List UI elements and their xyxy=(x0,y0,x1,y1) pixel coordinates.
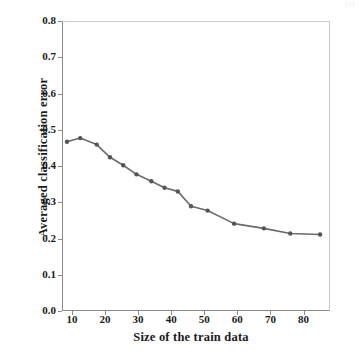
y-tick-label: 0.8 xyxy=(0,15,56,26)
x-tick-label: 30 xyxy=(123,314,153,325)
y-axis-title: Averaged classification error xyxy=(36,33,51,283)
x-tick-mark xyxy=(237,311,238,315)
y-tick-label: 0.1 xyxy=(0,269,56,280)
x-tick-label: 50 xyxy=(189,314,219,325)
y-tick-label: 0.5 xyxy=(0,124,56,135)
y-tick-mark xyxy=(58,239,62,240)
x-tick-label: 70 xyxy=(255,314,285,325)
x-tick-mark xyxy=(171,311,172,315)
x-axis-title: Size of the train data xyxy=(62,330,320,345)
y-tick-label: 0.4 xyxy=(0,160,56,171)
x-tick-mark xyxy=(204,311,205,315)
x-tick-label: 10 xyxy=(57,314,87,325)
y-tick-label: 0.0 xyxy=(0,305,56,316)
y-tick-mark xyxy=(58,166,62,167)
y-tick-label: 0.6 xyxy=(0,88,56,99)
x-tick-mark xyxy=(138,311,139,315)
x-tick-label: 20 xyxy=(90,314,120,325)
y-tick-mark xyxy=(58,130,62,131)
y-tick-label: 0.7 xyxy=(0,51,56,62)
x-tick-mark xyxy=(304,311,305,315)
y-tick-mark xyxy=(58,311,62,312)
plot-area xyxy=(62,21,330,311)
y-tick-mark xyxy=(58,94,62,95)
y-tick-label: 0.3 xyxy=(0,196,56,207)
y-tick-mark xyxy=(58,57,62,58)
x-tick-mark xyxy=(105,311,106,315)
y-tick-mark xyxy=(58,202,62,203)
x-tick-mark xyxy=(270,311,271,315)
x-tick-label: 40 xyxy=(156,314,186,325)
y-tick-mark xyxy=(58,275,62,276)
figure-container: (b) Averaged classification error Size o… xyxy=(0,0,361,356)
x-tick-label: 80 xyxy=(289,314,319,325)
caption-fragment: (b) xyxy=(345,0,355,8)
y-tick-label: 0.2 xyxy=(0,233,56,244)
x-tick-label: 60 xyxy=(222,314,252,325)
x-tick-mark xyxy=(72,311,73,315)
y-tick-mark xyxy=(58,21,62,22)
